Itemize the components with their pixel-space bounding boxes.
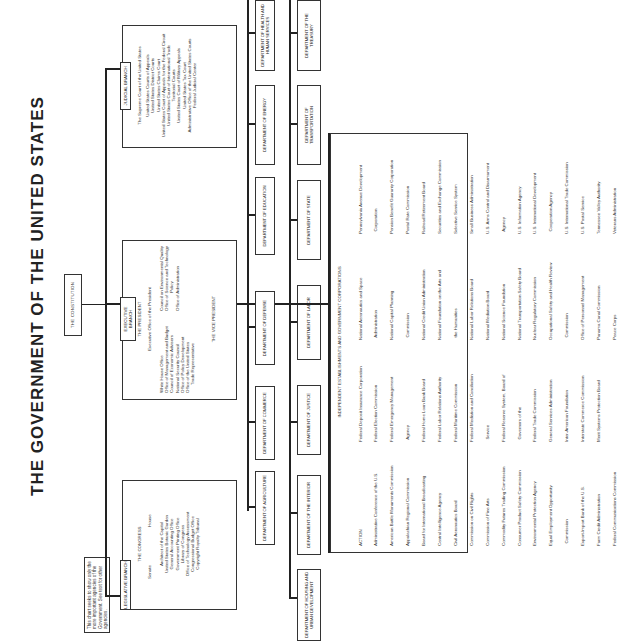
list-item: Commission: [564, 263, 569, 340]
list-item: Federal Labor Relations Authority: [437, 366, 442, 442]
connector: [247, 33, 255, 35]
list-item: Federal Home Loan Bank Board: [421, 366, 426, 442]
list-item: American Battle Monuments Commission: [389, 465, 394, 546]
list-item: Council of Economic Advisers: [169, 326, 174, 393]
connector: [247, 215, 255, 217]
constitution-box: THE CONSTITUTION: [64, 274, 82, 336]
list-item: Copyright Royalty Tribunal: [195, 479, 200, 609]
list-item: Inter-American Foundation: [564, 366, 569, 442]
list-item: Federal Maritime Commission: [453, 366, 458, 442]
connector: [105, 596, 120, 598]
congress-heading: THE CONGRESS: [137, 479, 142, 609]
executive-office-left: White House Office Office of Management …: [159, 326, 195, 393]
list-item: National Foundation on the Arts and: [437, 263, 442, 340]
department-transportation: DEPARTMENT OF TRANSPORTATION: [297, 85, 321, 165]
executive-branch-tag: EXECUTIVE BRANCH: [120, 297, 136, 341]
executive-branch-box: EXECUTIVE BRANCH THE PRESIDENT Executive…: [122, 240, 237, 400]
list-item: Governors of the: [517, 366, 522, 442]
vice-president-label: THE VICE PRESIDENT: [211, 239, 216, 399]
list-item: Federal Mediation and Conciliation: [469, 366, 474, 442]
list-item: Commission on Civil Rights: [469, 465, 474, 546]
list-item: Export-Import Bank of the U.S.: [580, 465, 585, 546]
department-defense: DEPARTMENT OF DEFENSE: [255, 291, 275, 365]
connector: [289, 124, 297, 126]
connector: [289, 513, 297, 515]
chart-title: THE GOVERNMENT OF THE UNITED STATES: [28, 81, 48, 511]
connector: [82, 304, 105, 305]
list-item: National Aeronautics and Space: [358, 263, 363, 340]
connector: [290, 304, 328, 306]
department-state: DEPARTMENT OF STATE: [297, 180, 321, 260]
list-item: National Transportation Safety Board: [517, 263, 522, 340]
connector: [105, 69, 120, 71]
list-item: Administrative Conference of the U.S.: [373, 465, 378, 546]
list-item: The Supreme Court of the United States: [137, 28, 142, 143]
independent-agencies-col1: ACTION Administrative Conference of the …: [347, 465, 622, 546]
list-item: Commission: [405, 263, 410, 340]
list-item: National Science Foundation: [501, 263, 506, 340]
list-item: Farm Credit Administration: [596, 465, 601, 546]
list-item: Federal Communications Commission: [612, 465, 617, 546]
list-item: Panama Canal Commission: [596, 263, 601, 340]
department-treasury: DEPARTMENT OF THE TREASURY: [297, 0, 321, 71]
list-item: Agency: [405, 366, 410, 442]
connector: [289, 33, 297, 35]
list-item: Federal Deposit Insurance Corporation: [358, 366, 363, 442]
judicial-branch-box: JUDICIAL BRANCH The Supreme Court of the…: [122, 25, 237, 148]
executive-office-heading: Executive Office of the President: [147, 239, 152, 399]
department-education: DEPARTMENT OF EDUCATION: [255, 177, 275, 255]
legislative-branch-tag: LEGISLATIVE BRANCH: [120, 560, 131, 610]
connector: [289, 598, 297, 600]
independent-agencies-col4: Pennsylvania Avenue Development Corporat…: [347, 160, 622, 234]
department-labor: DEPARTMENT OF LABOR: [297, 285, 321, 360]
list-item: Consumer Product Safety Commission: [517, 465, 522, 546]
list-item: Small Business Administration: [469, 160, 474, 234]
list-item: U.S. Postal Service: [580, 160, 585, 234]
independent-agencies-box: INDEPENDENT ESTABLISHMENTS AND GOVERNMEN…: [330, 133, 468, 553]
list-item: U.S. International Development: [532, 160, 537, 234]
connector: [237, 304, 247, 306]
list-item: Federal Election Commission: [373, 366, 378, 442]
department-interior: DEPARTMENT OF THE INTERIOR: [297, 475, 321, 555]
list-item: National Capital Planning: [389, 263, 394, 340]
list-item: Merit Systems Protection Board: [596, 366, 601, 442]
list-item: Pension Benefit Guaranty Corporation: [389, 160, 394, 234]
independent-agencies-col2: Federal Deposit Insurance Corporation Fe…: [347, 366, 612, 442]
list-item: Board for International Broadcasting: [421, 465, 426, 546]
list-item: Office of Science and Technology: [164, 246, 169, 311]
senate-label: Senate: [147, 565, 152, 579]
department-energy: DEPARTMENT OF ENERGY: [255, 85, 275, 165]
list-item: Selective Service System: [453, 160, 458, 234]
connector: [247, 507, 255, 509]
list-item: Federal Emergency Management: [389, 366, 394, 442]
legislative-branch-box: LEGISLATIVE BRANCH THE CONGRESS Senate H…: [122, 480, 237, 610]
list-item: Corporation: [373, 160, 378, 234]
list-item: Agency: [501, 160, 506, 234]
connector: [289, 0, 291, 599]
list-item: National Labor Relations Board: [469, 263, 474, 340]
list-item: Cooperation Agency: [548, 160, 553, 234]
department-agriculture: DEPARTMENT OF AGRICULTURE: [255, 471, 275, 545]
department-commerce: DEPARTMENT OF COMMERCE: [255, 386, 275, 460]
list-item: Railroad Retirement Board: [421, 160, 426, 234]
list-item: Administration: [373, 263, 378, 340]
legislative-agencies: Architect of the Capitol United States B…: [159, 479, 201, 609]
list-item: Appalachian Regional Commission: [405, 465, 410, 546]
president-heading: THE PRESIDENT: [137, 239, 142, 399]
list-item: Commission of Fine Arts: [485, 465, 490, 546]
list-item: the Humanities: [453, 263, 458, 340]
judicial-courts: The Supreme Court of the United States U…: [137, 28, 197, 143]
connector: [289, 322, 297, 324]
connector: [247, 0, 249, 511]
list-item: Postal Rate Commission: [405, 160, 410, 234]
list-item: Occupational Safety and Health Review: [548, 263, 553, 340]
list-item: National Credit Union Administration: [421, 263, 426, 340]
list-item: Office of Personnel Management: [580, 263, 585, 340]
list-item: Tennessee Valley Authority: [596, 160, 601, 234]
list-item: U.S. Information Agency: [517, 160, 522, 234]
list-item: Civil Aeronautics Board: [453, 465, 458, 546]
department-justice: DEPARTMENT OF JUSTICE: [297, 385, 321, 455]
list-item: ACTION: [358, 465, 363, 546]
list-item: U.S. Arms Control and Disarmament: [485, 160, 490, 234]
list-item: Pennsylvania Avenue Development: [358, 160, 363, 234]
